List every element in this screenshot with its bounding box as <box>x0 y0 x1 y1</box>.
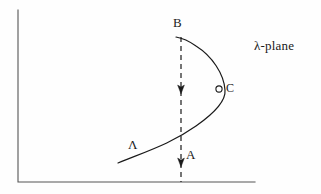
label-point-b: B <box>173 16 182 29</box>
lambda-plane-figure <box>0 0 321 194</box>
label-contour-lambda: Λ <box>128 138 137 151</box>
open-circle-marker-c <box>216 86 222 92</box>
label-lambda-plane: λ-plane <box>254 39 294 52</box>
figure-background <box>0 0 321 194</box>
label-point-c: C <box>226 82 234 94</box>
label-contour-a: A <box>186 148 195 161</box>
